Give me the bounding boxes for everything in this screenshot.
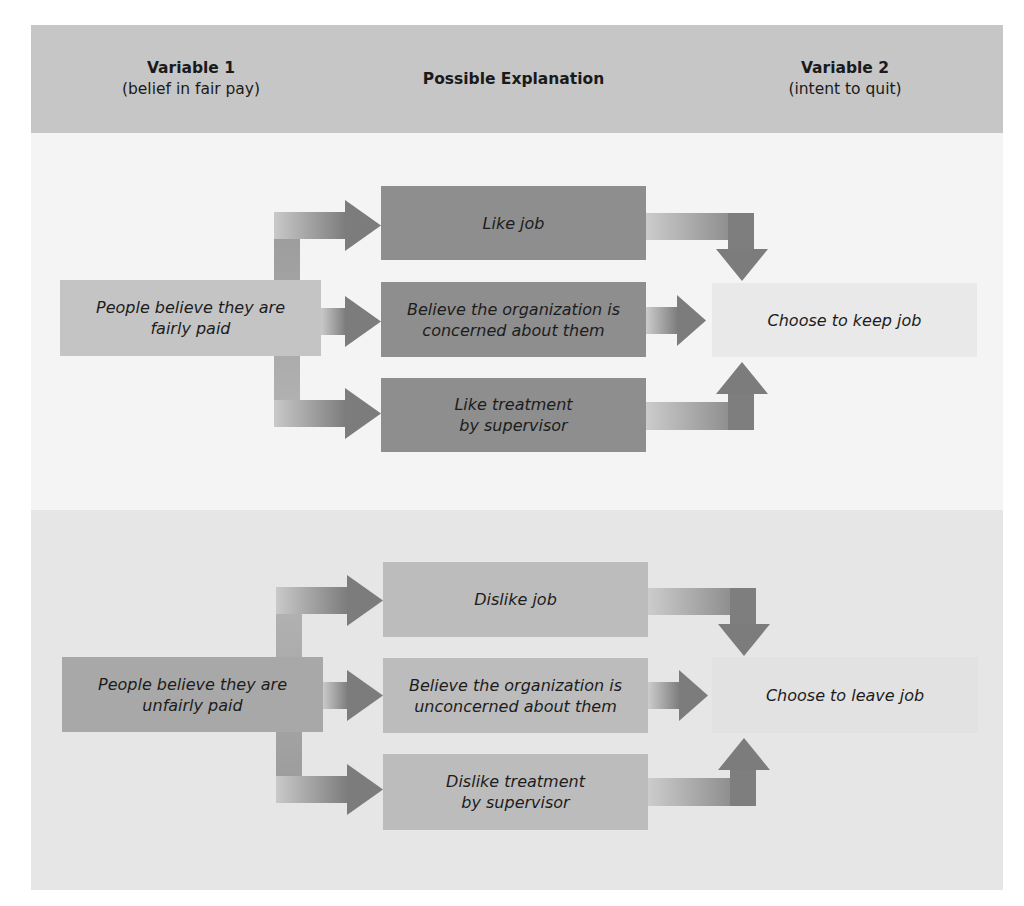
outcome-label: Choose to leave job xyxy=(766,685,924,706)
header-variable-2: Variable 2 (intent to quit) xyxy=(712,25,978,133)
source-box-unfairly-paid: People believe they are unfairly paid xyxy=(62,657,323,732)
source-box-fairly-paid: People believe they are fairly paid xyxy=(60,280,321,356)
explanation-label: Dislike job xyxy=(474,589,557,610)
header-variable-1-title: Variable 1 xyxy=(147,58,235,79)
explanation-label: Like job xyxy=(483,213,545,234)
explanation-box-org-concerned: Believe the organization is concerned ab… xyxy=(381,282,646,357)
explanation-box-like-supervisor: Like treatment by supervisor xyxy=(381,378,646,452)
outcome-box-keep-job: Choose to keep job xyxy=(712,283,977,357)
explanation-box-like-job: Like job xyxy=(381,186,646,260)
source-label: People believe they are unfairly paid xyxy=(98,674,288,716)
header-possible-explanation: Possible Explanation xyxy=(381,25,646,133)
header-variable-1-subtitle: (belief in fair pay) xyxy=(122,79,260,100)
explanation-label: Dislike treatment by supervisor xyxy=(436,771,596,813)
explanation-label: Like treatment by supervisor xyxy=(444,394,584,436)
header-band: Variable 1 (belief in fair pay) Possible… xyxy=(31,25,1003,133)
outcome-label: Choose to keep job xyxy=(768,310,922,331)
header-variable-2-title: Variable 2 xyxy=(801,58,889,79)
explanation-box-dislike-supervisor: Dislike treatment by supervisor xyxy=(383,754,648,830)
explanation-label: Believe the organization is unconcerned … xyxy=(389,675,642,717)
header-possible-explanation-title: Possible Explanation xyxy=(423,69,604,90)
explanation-box-dislike-job: Dislike job xyxy=(383,562,648,637)
explanation-box-org-unconcerned: Believe the organization is unconcerned … xyxy=(383,658,648,733)
outcome-box-leave-job: Choose to leave job xyxy=(712,657,978,733)
explanation-label: Believe the organization is concerned ab… xyxy=(394,299,634,341)
source-label: People believe they are fairly paid xyxy=(96,297,286,339)
header-variable-1: Variable 1 (belief in fair pay) xyxy=(60,25,322,133)
header-variable-2-subtitle: (intent to quit) xyxy=(788,79,901,100)
